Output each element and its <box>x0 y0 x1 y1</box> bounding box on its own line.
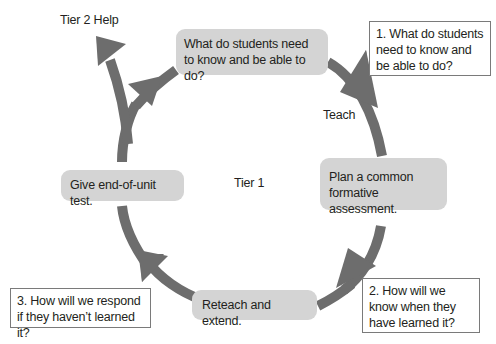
tier1-label: Tier 1 <box>234 176 264 190</box>
stage-reteach: Reteach and extend. <box>192 290 317 320</box>
question-box-3: 3. How will we respond if they haven’t l… <box>10 288 151 328</box>
arc-into-reteach <box>318 284 352 306</box>
stage-test: Give end-of-unit test. <box>61 170 184 201</box>
plc-cycle-diagram: Tier 2 Help Teach Tier 1 What do student… <box>0 0 496 344</box>
question-box-1: 1. What do students need to know and be … <box>369 21 491 76</box>
question-box-2: 2. How will we know when they have learn… <box>362 278 480 333</box>
teach-label: Teach <box>323 108 355 122</box>
tier2-label: Tier 2 Help <box>60 13 118 27</box>
question-2-text: 2. How will we know when they have learn… <box>369 284 456 330</box>
arc-tier2-branch <box>110 60 128 144</box>
stage-plan-text: Plan a common formative assessment. <box>329 170 413 216</box>
stage-know: What do students need to know and be abl… <box>176 29 328 75</box>
question-1-text: 1. What do students need to know and be … <box>376 27 483 73</box>
stage-plan: Plan a common formative assessment. <box>320 158 447 210</box>
